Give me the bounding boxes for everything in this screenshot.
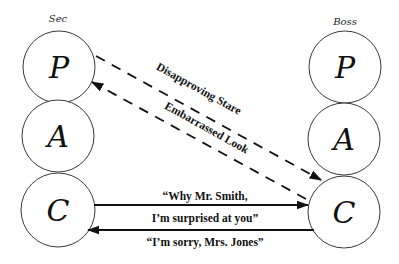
why-mr-smith-line1: “Why Mr. Smith, bbox=[162, 190, 247, 203]
sec-child-state: C bbox=[21, 173, 95, 247]
sec-child-letter: C bbox=[47, 193, 70, 228]
sec-adult-letter: A bbox=[44, 119, 69, 154]
boss-child-letter: C bbox=[333, 195, 356, 230]
disapproving-stare-transaction: Disapproving Stare bbox=[96, 56, 321, 180]
why-mr-smith-line2: I’m surprised at you” bbox=[152, 212, 259, 225]
why-mr-smith-transaction: “Why Mr. Smith, I’m surprised at you” bbox=[94, 190, 308, 225]
boss-ego-states: Boss P A C bbox=[308, 16, 381, 248]
im-sorry-transaction: “I’m sorry, Mrs. Jones” bbox=[88, 230, 314, 249]
boss-parent-letter: P bbox=[334, 50, 356, 85]
dashed-arrow-icon bbox=[92, 82, 306, 199]
boss-adult-state: A bbox=[308, 103, 380, 175]
sec-parent-state: P bbox=[23, 31, 95, 103]
boss-label: Boss bbox=[332, 16, 357, 27]
sec-ego-states: Sec P A C bbox=[21, 13, 95, 247]
dashed-arrow-icon bbox=[96, 56, 321, 180]
im-sorry-label: “I’m sorry, Mrs. Jones” bbox=[146, 236, 263, 249]
boss-child-state: C bbox=[308, 176, 380, 248]
sec-label: Sec bbox=[49, 13, 68, 24]
boss-parent-state: P bbox=[309, 31, 381, 103]
embarrassed-look-transaction: Embarrassed Look bbox=[92, 82, 306, 199]
transactional-analysis-diagram: Sec P A C Boss P A C Disappro bbox=[0, 0, 399, 264]
boss-adult-letter: A bbox=[330, 122, 355, 157]
sec-parent-letter: P bbox=[48, 50, 70, 85]
sec-adult-state: A bbox=[22, 100, 94, 172]
